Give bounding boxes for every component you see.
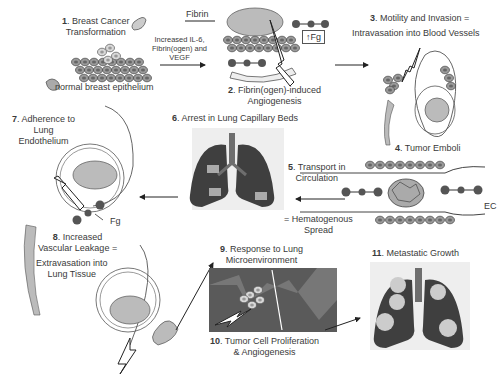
step-3-sublabel: Intravasation into Blood Vessels — [352, 28, 480, 39]
factors-label: Increased IL-6,Fibrin(ogen) andVEGF — [152, 35, 207, 62]
fibrin-label: Fibrin — [186, 9, 209, 20]
step-5-sublabel: = HematogenousSpread — [284, 214, 353, 236]
step-8-label: 8. IncreasedVascular Leakage = — [38, 232, 117, 254]
angiogenesis-tumor — [224, 8, 330, 86]
lung-microenvironment — [209, 268, 337, 332]
ec-label: EC — [484, 201, 497, 212]
normal-epithelium-label: normal breast epithelium — [55, 82, 154, 93]
step-2-label: 2. Fibrin(ogen)-inducedAngiogenesis — [228, 85, 321, 107]
step-11-label: 11. Metastatic Growth — [372, 248, 459, 259]
diagram-artwork — [0, 0, 504, 382]
step-4-label: 4. Tumor Emboli — [395, 143, 461, 154]
step-5-label: 5. Transport inCirculation — [288, 162, 346, 184]
step-6-label: 6. Arrest in Lung Capillary Beds — [172, 113, 298, 124]
step-8-sublabel: Extravasation intoLung Tissue — [36, 258, 108, 280]
fg-increase-box: ↑Fg — [302, 30, 325, 44]
step-10-label: 10. Tumor Cell Proliferation& Angiogenes… — [210, 336, 319, 358]
extravasation-vessel — [96, 245, 178, 374]
step-9-label: 9. Response to LungMicroenvironment — [220, 244, 303, 266]
step-7-label: 7. Adherence toLungEndothelium — [12, 114, 75, 147]
step-3-label: 3. Motility and Invasion = — [370, 13, 469, 24]
lungs-arrest — [190, 128, 284, 210]
intravasation-vessel — [384, 48, 456, 145]
fg-label: Fg — [110, 216, 121, 227]
lungs-metastatic — [370, 262, 470, 350]
step-1-label: 1. Breast CancerTransformation — [62, 16, 130, 38]
